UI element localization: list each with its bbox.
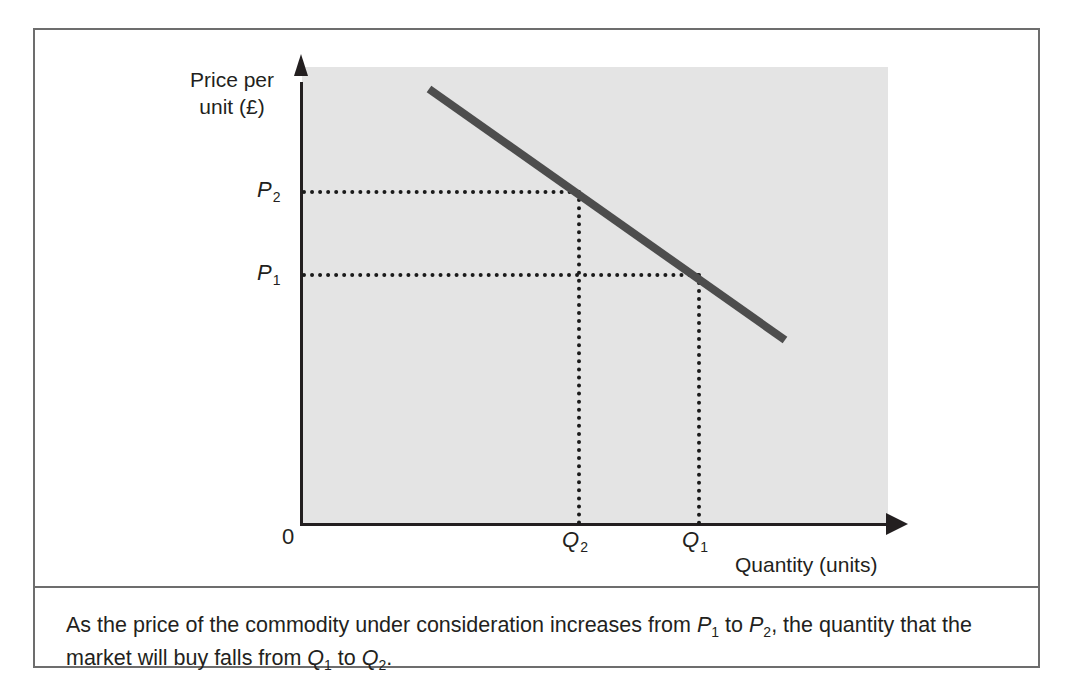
figure-caption: As the price of the commodity under cons… [66, 610, 1006, 676]
axis-label-p1-letter: P [257, 260, 272, 285]
caption-divider [35, 586, 1038, 588]
y-axis-title-line2: unit (£) [199, 95, 264, 118]
axis-label-q1-subscript: 1 [699, 539, 708, 555]
origin-label: 0 [282, 524, 294, 550]
x-axis-title: Quantity (units) [735, 553, 877, 577]
axis-label-p2-subscript: 2 [272, 189, 281, 205]
axis-label-q2-letter: Q [562, 527, 579, 552]
axis-label-q1-letter: Q [682, 527, 699, 552]
axis-label-p1: P1 [257, 260, 280, 286]
axis-label-q2: Q2 [562, 527, 588, 553]
axis-label-p2: P2 [257, 177, 280, 203]
figure-frame: Price per unit (£) Quantity (units) 0 P2… [33, 28, 1040, 668]
axis-label-q1: Q1 [682, 527, 708, 553]
axis-label-p1-subscript: 1 [272, 272, 281, 288]
chart-canvas: Price per unit (£) Quantity (units) 0 P2… [35, 30, 1042, 586]
axis-label-p2-letter: P [257, 177, 272, 202]
y-axis-title: Price per unit (£) [167, 66, 297, 120]
axis-label-q2-subscript: 2 [579, 539, 588, 555]
y-axis-title-line1: Price per [190, 68, 274, 91]
